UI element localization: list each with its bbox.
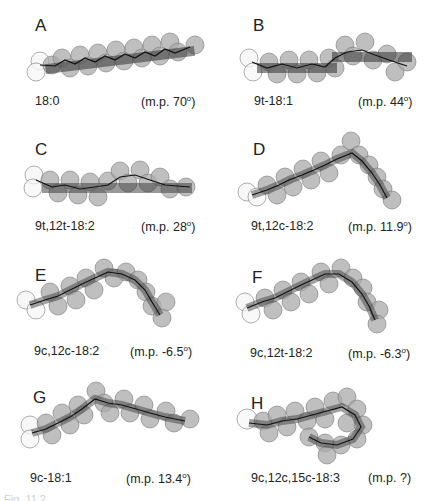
mp-close: ) [406, 347, 410, 361]
mp-close: ) [408, 220, 412, 234]
mp-value: (m.p. 11.9 [348, 220, 403, 234]
melting-point: (m.p. ?) [368, 471, 411, 485]
mp-value: (m.p. -6.3 [348, 347, 402, 361]
mp-value: (m.p. 70 [141, 95, 187, 109]
panel-f: F 9c,12t-18:2 (m.p. -6.3o) [217, 250, 427, 375]
space-filling-molecule-9c-12c-15c-18-3 [217, 375, 427, 470]
mp-close: ) [191, 220, 195, 234]
melting-point: (m.p. -6.5o) [130, 344, 192, 359]
space-filling-molecule-9c-12t-18-2 [217, 250, 427, 345]
mp-value: (m.p. 28 [141, 220, 187, 234]
compound-name: 9t,12t-18:2 [35, 219, 95, 233]
panel-h: H 9c,12c,15c-18:3 (m.p. ?) [217, 375, 427, 500]
space-filling-molecule-9c-12c-18-2 [0, 250, 210, 345]
compound-name: 9c,12c-18:2 [34, 344, 99, 358]
panel-a: A 18:0 (m.p. 70o) [0, 0, 210, 125]
mp-close: ) [188, 345, 192, 359]
melting-point: (m.p. 13.4o) [126, 471, 191, 486]
mp-value: (m.p. 13.4 [126, 472, 182, 486]
panel-g: G 9c-18:1 (m.p. 13.4o) [0, 375, 210, 500]
space-filling-molecule-9t-12t-18-2 [0, 125, 210, 220]
melting-point: (m.p. 70o) [141, 94, 195, 109]
panel-b: B 9t-18:1 (m.p. 44o) [217, 0, 427, 125]
melting-point: (m.p. -6.3o) [348, 346, 410, 361]
panel-e: E 9c,12c-18:2 (m.p. -6.5o) [0, 250, 210, 375]
mp-close: ) [187, 472, 191, 486]
space-filling-molecule-9t-18-1 [217, 0, 427, 95]
compound-name: 9c-18:1 [30, 471, 72, 485]
compound-name: 9t-18:1 [254, 94, 293, 108]
compound-name: 9t,12c-18:2 [251, 219, 314, 233]
mp-value: (m.p. -6.5 [130, 345, 184, 359]
mp-close: ) [407, 471, 411, 485]
figure-caption-truncated: Fig. 11.2 [4, 493, 46, 501]
mp-close: ) [408, 95, 412, 109]
panel-c: C 9t,12t-18:2 (m.p. 28o) [0, 125, 210, 250]
space-filling-molecule-9c-18-1 [0, 375, 210, 470]
compound-name: 18:0 [35, 94, 59, 108]
melting-point: (m.p. 11.9o) [348, 219, 412, 234]
mp-close: ) [191, 95, 195, 109]
melting-point: (m.p. 28o) [141, 219, 195, 234]
mp-value: (m.p. ? [368, 471, 407, 485]
space-filling-molecule-18-0 [0, 0, 210, 95]
melting-point: (m.p. 44o) [358, 94, 412, 109]
panel-d: D 9t,12c-18:2 (m.p. 11.9o) [217, 125, 427, 250]
compound-name: 9c,12c,15c-18:3 [251, 471, 340, 485]
mp-value: (m.p. 44 [358, 95, 404, 109]
space-filling-molecule-9t-12c-18-2 [217, 125, 427, 220]
compound-name: 9c,12t-18:2 [250, 346, 313, 360]
